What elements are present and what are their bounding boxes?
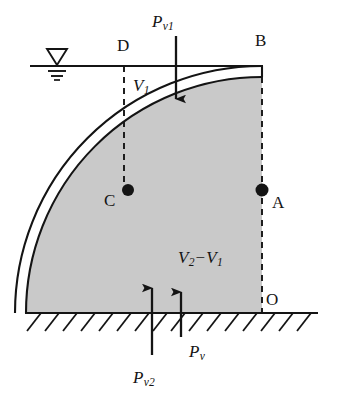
label-pressure-v-sub: v <box>200 350 205 363</box>
label-pressure-v1-base: P <box>152 12 162 31</box>
label-pressure-v-base: P <box>189 342 199 361</box>
label-pressure-v1-sub: v1 <box>163 20 174 33</box>
label-volume-v2-base: V <box>178 248 188 267</box>
ground-surface <box>25 313 318 331</box>
label-point-o: O <box>266 291 278 308</box>
node-dot-a <box>256 184 269 197</box>
shaded-volume-fill <box>26 77 262 313</box>
label-pressure-v1: Pv1 <box>152 13 174 30</box>
label-volume-difference: V2−V1 <box>178 249 223 266</box>
label-point-a: A <box>272 194 284 211</box>
node-dot-c <box>122 184 134 196</box>
volume-region-shaded <box>26 77 262 313</box>
label-volume-v1b-sub: 1 <box>217 256 223 269</box>
water-table-symbol <box>47 49 67 80</box>
label-volume-v1-base: V <box>133 76 143 95</box>
label-pressure-v2-sub: v2 <box>144 376 155 389</box>
label-pressure-v2: Pv2 <box>133 369 155 386</box>
label-point-d: D <box>117 37 129 54</box>
label-point-c: C <box>104 192 116 209</box>
label-pressure-v: Pv <box>189 343 205 360</box>
label-volume-v2-sub: 2 <box>189 256 195 269</box>
ground-hatching <box>27 313 311 331</box>
label-point-b: B <box>255 32 267 49</box>
figure-container: D B C A O Pv1 V1 V2−V1 Pv Pv2 <box>0 0 338 409</box>
diagram-canvas <box>0 0 338 409</box>
label-volume-v1-sub: 1 <box>144 84 150 97</box>
label-volume-v1b-base: V <box>206 248 216 267</box>
label-pressure-v2-base: P <box>133 368 143 387</box>
label-volume-v1: V1 <box>133 77 150 94</box>
water-table-triangle-icon <box>47 49 67 65</box>
label-minus-operator: − <box>195 248 207 267</box>
